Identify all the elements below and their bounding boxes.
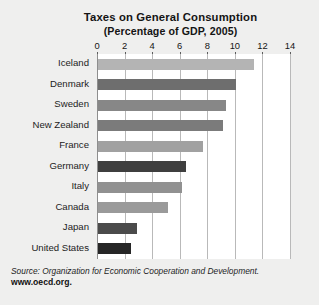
- bar-canada: [98, 202, 168, 213]
- bar-italy: [98, 182, 182, 193]
- category-label-united-states: United States: [31, 242, 89, 253]
- x-tick-label-0: 0: [94, 40, 99, 51]
- bar-france: [98, 141, 203, 152]
- x-tick-label-12: 12: [257, 40, 267, 51]
- bar-row: [98, 161, 291, 172]
- category-label-denmark: Denmark: [50, 78, 89, 89]
- chart-title: Taxes on General Consumption: [0, 11, 319, 25]
- bar-row: [98, 141, 291, 152]
- bar-japan: [98, 223, 137, 234]
- category-label-germany: Germany: [50, 160, 89, 171]
- x-tick-label-10: 10: [230, 40, 240, 51]
- bar-row: [98, 182, 291, 193]
- x-tick-label-2: 2: [122, 40, 127, 51]
- x-tick-label-6: 6: [177, 40, 182, 51]
- chart-figure: Taxes on General Consumption (Percentage…: [0, 0, 319, 305]
- category-label-new-zealand: New Zealand: [32, 119, 89, 130]
- category-label-sweden: Sweden: [54, 98, 89, 109]
- bar-sweden: [98, 100, 226, 111]
- bar-row: [98, 243, 291, 254]
- category-label-italy: Italy: [71, 180, 89, 191]
- category-label-japan: Japan: [63, 221, 89, 232]
- bar-new-zealand: [98, 120, 223, 131]
- category-label-iceland: Iceland: [58, 57, 89, 68]
- bar-row: [98, 79, 291, 90]
- chart-title-block: Taxes on General Consumption (Percentage…: [0, 11, 319, 38]
- bar-iceland: [98, 59, 254, 70]
- source-url: www.oecd.org.: [11, 277, 311, 288]
- bar-denmark: [98, 79, 236, 90]
- category-label-canada: Canada: [55, 201, 89, 212]
- bar-germany: [98, 161, 186, 172]
- source-note: Source: Organization for Economic Cooper…: [11, 266, 311, 277]
- chart-subtitle: (Percentage of GDP, 2005): [0, 25, 319, 38]
- bar-row: [98, 120, 291, 131]
- x-tick-label-4: 4: [150, 40, 155, 51]
- bar-row: [98, 59, 291, 70]
- bar-row: [98, 202, 291, 213]
- category-label-france: France: [59, 139, 89, 150]
- bar-row: [98, 100, 291, 111]
- x-axis-tick-labels: 02468101214: [97, 40, 290, 52]
- bar-row: [98, 223, 291, 234]
- x-tick-label-14: 14: [285, 40, 295, 51]
- plot-area: [97, 54, 291, 259]
- bar-united-states: [98, 243, 131, 254]
- x-tick-label-8: 8: [205, 40, 210, 51]
- source-block: Source: Organization for Economic Cooper…: [11, 266, 311, 288]
- y-axis-category-labels: IcelandDenmarkSwedenNew ZealandFranceGer…: [0, 54, 94, 259]
